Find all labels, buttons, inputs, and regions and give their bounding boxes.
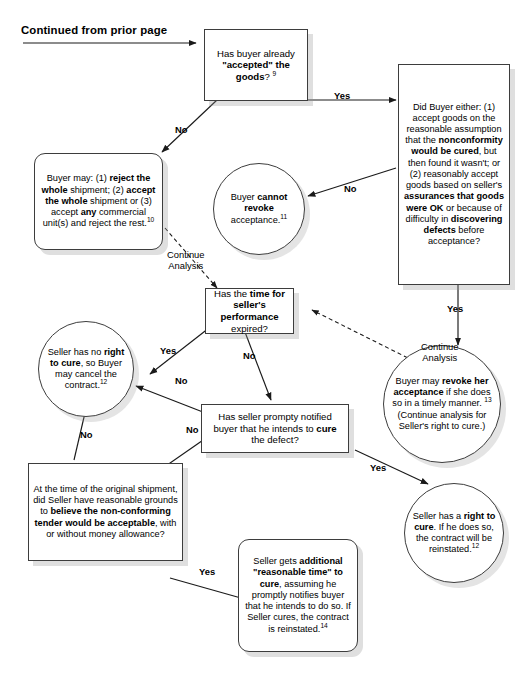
edge-label-notified-no-upper: No [175, 375, 188, 386]
arrow-accepted-no [162, 100, 217, 152]
buyer-cannot-revoke-acceptance-text: Buyer cannot revoke acceptance.11 [214, 192, 304, 226]
buyer-may-revoke-acceptance-text: Buyer may revoke her acceptance if she d… [384, 376, 500, 432]
edge-label-grounds-no: No [80, 429, 93, 440]
edge-label-notified-yes: Yes [370, 462, 386, 473]
edge-label-grounds-yes: Yes [199, 566, 215, 577]
continued-from-prior-page-label: Continued from prior page [21, 24, 167, 36]
buyer-cannot-revoke-acceptance[interactable]: Buyer cannot revoke acceptance.11 [213, 163, 305, 255]
seller-has-no-right-to-cure-text: Seller has no right to cure, so Buyer ma… [39, 347, 133, 392]
seller-gets-additional-reasonable-time[interactable]: Seller gets additional "reasonable time"… [238, 539, 358, 652]
did-buyer-either-text: Did Buyer either: (1) accept goods on th… [399, 102, 509, 248]
arrow-timeexpired-yes [150, 328, 209, 374]
arrow-notified-no [136, 386, 208, 414]
seller-has-right-to-cure-text: Seller has a right to cure. If he does s… [405, 511, 503, 556]
edge-label-didbuyer-no: No [344, 183, 357, 194]
additional-reasonable-time-text: Seller gets additional "reasonable time"… [239, 556, 357, 634]
edge-label-timeexpired-yes: Yes [160, 345, 176, 356]
arrow-continue-analysis-right [312, 310, 420, 364]
edge-label-notified-no-lower: No [186, 424, 199, 435]
flowchart-canvas: Continued from prior page Has buyer alre… [0, 0, 532, 679]
edge-label-continue-analysis-right: Continue Analysis [421, 341, 459, 363]
arrow-timeexpired-no [245, 332, 271, 400]
edge-label-didbuyer-yes: Yes [447, 303, 463, 314]
seller-has-no-right-to-cure[interactable]: Seller has no right to cure, so Buyer ma… [38, 321, 134, 417]
edge-label-timeexpired-no: No [243, 350, 256, 361]
has-time-for-sellers-performance-expired[interactable]: Has the time for seller's performance ex… [205, 288, 294, 334]
reasonable-grounds-text: At the time of the original shipment, di… [29, 484, 182, 540]
buyer-may-reject-accept-text: Buyer may: (1) reject the whole shipment… [35, 173, 162, 229]
time-for-performance-text: Has the time for seller's performance ex… [206, 288, 293, 334]
arrow-grounds-yes [170, 578, 248, 600]
seller-has-right-to-cure[interactable]: Seller has a right to cure. If he does s… [404, 483, 504, 583]
did-buyer-either[interactable]: Did Buyer either: (1) accept goods on th… [398, 64, 510, 285]
has-seller-promptly-notified-buyer[interactable]: Has seller prompty notified buyer that h… [201, 404, 349, 453]
has-buyer-accepted-goods[interactable]: Has buyer already "accepted" the goods? … [204, 29, 308, 101]
edge-label-accepted-no: No [175, 124, 188, 135]
buyer-may-reject-accept[interactable]: Buyer may: (1) reject the whole shipment… [34, 153, 163, 250]
seller-reasonable-grounds-nonconforming-tender[interactable]: At the time of the original shipment, di… [28, 463, 183, 561]
edge-label-accepted-yes: Yes [334, 90, 350, 101]
edge-label-continue-analysis-left: Continue Analysis [167, 249, 205, 271]
has-seller-notified-text: Has seller prompty notified buyer that h… [202, 411, 348, 446]
has-buyer-accepted-goods-text: Has buyer already "accepted" the goods? … [205, 48, 307, 83]
